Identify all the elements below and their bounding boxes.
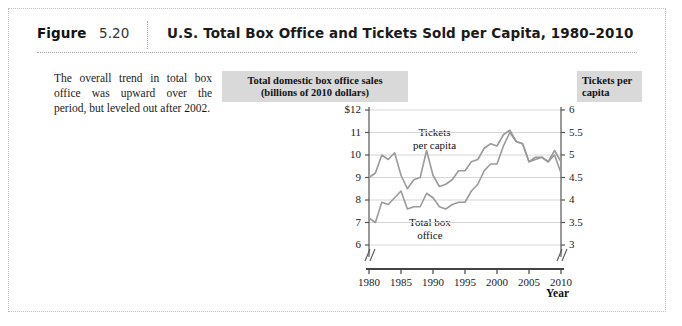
- figure-number: 5.20: [99, 25, 129, 41]
- left-axis-title-line1: Total domestic box office sales: [227, 75, 403, 87]
- right-axis-title-line1: Tickets per: [582, 75, 637, 87]
- annotation-tickets-line1: Tickets: [413, 126, 456, 139]
- figure-title: U.S. Total Box Office and Tickets Sold p…: [167, 25, 634, 41]
- annotation-tickets-line2: per capita: [413, 139, 456, 152]
- annotation-boxoffice-line1: Total box: [409, 216, 451, 229]
- figure-caption: The overall trend in total box office wa…: [54, 71, 212, 116]
- figure-header: Figure 5.20 U.S. Total Box Office and Ti…: [37, 23, 637, 53]
- annotation-boxoffice-line2: office: [409, 229, 451, 242]
- figure-frame: Figure 5.20 U.S. Total Box Office and Ti…: [8, 8, 666, 312]
- left-axis-title-box: Total domestic box office sales (billion…: [222, 71, 408, 102]
- annotation-total-box-office: Total box office: [409, 216, 451, 242]
- figure-label: Figure: [37, 25, 87, 41]
- annotation-tickets-per-capita: Tickets per capita: [413, 126, 456, 152]
- right-axis-title-box: Tickets per capita: [577, 71, 642, 102]
- right-axis-title-line2: capita: [582, 87, 637, 99]
- header-divider: [147, 21, 148, 49]
- left-axis-title-line2: (billions of 2010 dollars): [227, 87, 403, 99]
